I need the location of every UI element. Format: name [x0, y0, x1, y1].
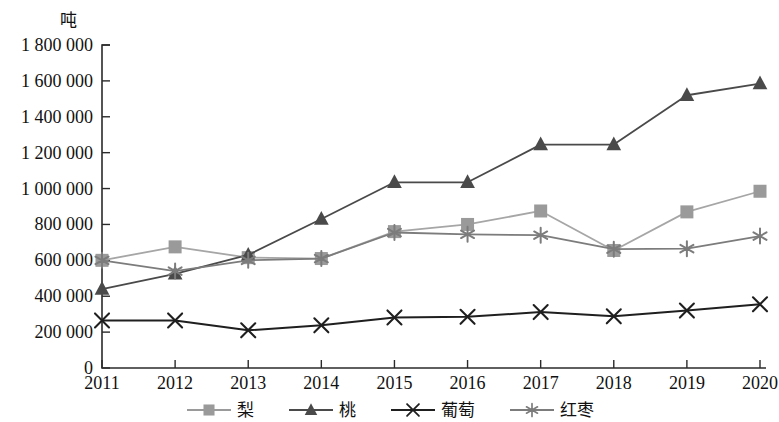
y-axis-tick-label: 1 200 000 — [21, 143, 93, 163]
legend-marker-cross-icon — [390, 400, 436, 420]
legend-item-square[interactable]: 梨 — [186, 400, 254, 420]
axis-frame — [102, 45, 766, 368]
data-point-triangle — [387, 174, 402, 188]
legend-marker-square-icon — [186, 400, 232, 420]
x-axis-tick-label: 2014 — [303, 373, 339, 393]
x-axis-tick-label: 2016 — [450, 373, 486, 393]
series-line — [102, 191, 760, 260]
data-point-triangle — [753, 76, 768, 90]
chart-legend: 梨桃葡萄红枣 — [0, 400, 779, 420]
x-axis-tick-label: 2015 — [376, 373, 412, 393]
line-chart-plot: 0200 000400 000600 000800 0001 000 0001 … — [0, 0, 779, 422]
y-axis-tick-label: 1 600 000 — [21, 71, 93, 91]
data-point-square — [680, 205, 693, 218]
data-point-triangle — [606, 137, 621, 151]
x-axis-tick-label: 2020 — [742, 373, 778, 393]
y-axis-tick-label: 1 800 000 — [21, 35, 93, 55]
x-axis-tick-label: 2012 — [157, 373, 193, 393]
x-axis-tick-label: 2011 — [84, 373, 119, 393]
y-axis-tick-label: 600 000 — [35, 250, 94, 270]
legend-label: 桃 — [339, 402, 356, 419]
series-group — [95, 76, 768, 338]
data-point-square — [754, 185, 767, 198]
x-axis-tick-label: 2017 — [523, 373, 559, 393]
series-1 — [95, 76, 768, 295]
series-line — [102, 233, 760, 272]
legend-item-triangle[interactable]: 桃 — [288, 400, 356, 420]
series-line — [102, 84, 760, 289]
legend-label: 红枣 — [560, 402, 594, 419]
series-3 — [96, 225, 767, 279]
x-axis-group: 2011201220132014201520162017201820192020 — [84, 360, 778, 393]
data-point-triangle — [460, 174, 475, 188]
y-axis-tick-label: 200 000 — [35, 322, 94, 342]
legend-label: 梨 — [237, 402, 254, 419]
legend-item-cross[interactable]: 葡萄 — [390, 400, 475, 420]
series-2 — [95, 297, 767, 337]
y-axis-tick-label: 400 000 — [35, 286, 94, 306]
legend-marker-asterisk-icon — [509, 400, 555, 420]
data-point-square — [534, 204, 547, 217]
x-axis-tick-label: 2013 — [230, 373, 266, 393]
series-0 — [96, 185, 767, 267]
y-axis-tick-label: 1 400 000 — [21, 107, 93, 127]
legend-label: 葡萄 — [441, 402, 475, 419]
legend-marker-triangle-icon — [288, 400, 334, 420]
legend-item-asterisk[interactable]: 红枣 — [509, 400, 594, 420]
data-point-triangle — [314, 211, 329, 225]
y-axis-group: 0200 000400 000600 000800 0001 000 0001 … — [21, 35, 766, 378]
y-axis-tick-label: 800 000 — [35, 214, 94, 234]
x-axis-tick-label: 2019 — [669, 373, 705, 393]
data-point-square — [169, 240, 182, 253]
data-point-triangle — [533, 137, 548, 151]
series-line — [102, 304, 760, 330]
chart-container: 吨 0200 000400 000600 000800 0001 000 000… — [0, 0, 779, 422]
data-point-square — [203, 404, 214, 415]
x-axis-tick-label: 2018 — [596, 373, 632, 393]
y-axis-tick-label: 1 000 000 — [21, 179, 93, 199]
